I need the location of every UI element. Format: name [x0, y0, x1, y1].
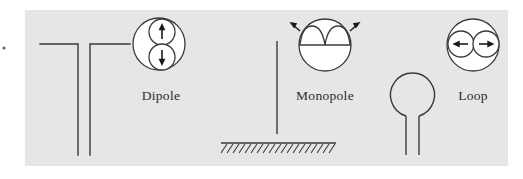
loop-radiation-pattern-icon	[447, 19, 499, 71]
dipole-label: Dipole	[142, 88, 181, 103]
loop-label: Loop	[458, 88, 488, 103]
antenna-figure-canvas: Dipole	[0, 0, 523, 179]
margin-speck-mark	[2, 46, 5, 49]
monopole-label: Monopole	[296, 88, 354, 103]
dipole-radiation-pattern-icon	[133, 18, 185, 70]
antenna-figure: Dipole	[0, 0, 523, 179]
